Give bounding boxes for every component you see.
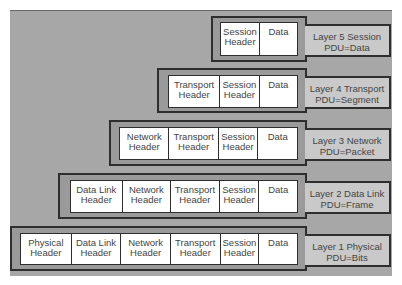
layer-5-title: Layer 5 Session <box>305 31 389 42</box>
layer-2-label: Layer 2 Data Link PDU=Frame <box>305 181 391 214</box>
transport-header-cell: Transport Header <box>171 234 221 264</box>
data-cell: Data <box>260 76 297 107</box>
data-cell: Data <box>258 128 297 159</box>
network-header-cell: Network Header <box>120 128 169 159</box>
session-header-cell: Session Header <box>220 181 260 212</box>
layer-3-pdu: PDU=Packet <box>305 146 389 157</box>
layer-2-title: Layer 2 Data Link <box>305 188 389 199</box>
network-header-cell: Network Header <box>121 234 171 264</box>
layer-5-pdu-row: Session Header Data <box>220 22 298 56</box>
layer-2-pdu-row: Data Link Header Network Header Transpor… <box>70 180 298 213</box>
transport-header-cell: Transport Header <box>171 181 220 212</box>
data-link-header-cell: Data Link Header <box>72 234 122 264</box>
session-header-cell: Session Header <box>221 23 260 55</box>
data-link-header-cell: Data Link Header <box>71 181 123 212</box>
session-header-cell: Session Header <box>221 234 260 264</box>
layer-4-title: Layer 4 Transport <box>305 83 389 94</box>
layer-3-title: Layer 3 Network <box>305 135 389 146</box>
layer-4-pdu-row: Transport Header Session Header Data <box>168 75 298 108</box>
layer-2-pdu: PDU=Frame <box>305 199 389 210</box>
session-header-cell: Session Header <box>219 128 259 159</box>
data-cell: Data <box>259 234 297 264</box>
layer-1-title: Layer 1 Physical <box>305 241 389 252</box>
layer-1-pdu-row: Physical Header Data Link Header Network… <box>20 233 298 265</box>
transport-header-cell: Transport Header <box>169 128 218 159</box>
layer-3-label: Layer 3 Network PDU=Packet <box>305 128 391 161</box>
network-header-cell: Network Header <box>123 181 172 212</box>
physical-header-cell: Physical Header <box>21 234 72 264</box>
transport-header-cell: Transport Header <box>169 76 220 107</box>
layer-4-pdu: PDU=Segment <box>305 94 389 105</box>
layer-5-pdu: PDU=Data <box>305 42 389 53</box>
data-cell: Data <box>260 23 297 55</box>
layer-3-pdu-row: Network Header Transport Header Session … <box>119 127 298 160</box>
layer-5-label: Layer 5 Session PDU=Data <box>305 24 391 57</box>
session-header-cell: Session Header <box>220 76 259 107</box>
layer-1-pdu: PDU=Bits <box>305 252 389 263</box>
layer-1-label: Layer 1 Physical PDU=Bits <box>305 234 391 267</box>
layer-4-label: Layer 4 Transport PDU=Segment <box>305 76 391 109</box>
data-cell: Data <box>259 181 297 212</box>
